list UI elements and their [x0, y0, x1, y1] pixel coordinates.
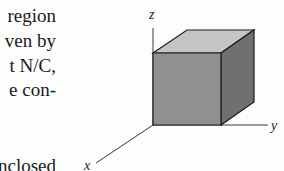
x-axis-label: x	[83, 158, 91, 171]
y-axis-label: y	[269, 118, 278, 133]
textbook-page: region ven by t N/C, e con- nclosed z y …	[0, 0, 284, 171]
cube-front-face	[153, 53, 221, 125]
z-axis-label: z	[148, 7, 155, 22]
cube-figure: z y x	[0, 0, 284, 171]
x-axis	[96, 125, 153, 163]
